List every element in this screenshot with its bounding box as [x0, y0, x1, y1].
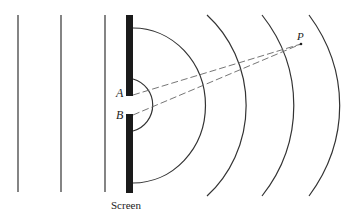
slit-b-label: B — [116, 108, 123, 123]
circular-wavefronts — [133, 15, 340, 196]
point-p-marker — [300, 43, 303, 46]
screen-barrier — [126, 15, 133, 193]
path-b-to-p — [133, 44, 301, 115]
circular-wavefront-2 — [133, 28, 205, 183]
slit-a-label: A — [116, 86, 123, 101]
circular-wavefront-4 — [262, 15, 294, 196]
path-lines — [133, 44, 301, 115]
circular-wavefront-3 — [207, 15, 246, 196]
screen-label: Screen — [111, 199, 141, 211]
screen-upper-segment — [126, 15, 133, 96]
circular-wavefront-5 — [309, 15, 340, 196]
double-slit-diagram — [0, 0, 343, 216]
path-a-to-p — [133, 44, 301, 95]
screen-lower-segment — [126, 114, 133, 193]
plane-wavefronts — [18, 15, 105, 192]
circular-wavefront-1 — [133, 79, 153, 131]
point-p-label: P — [297, 30, 304, 42]
